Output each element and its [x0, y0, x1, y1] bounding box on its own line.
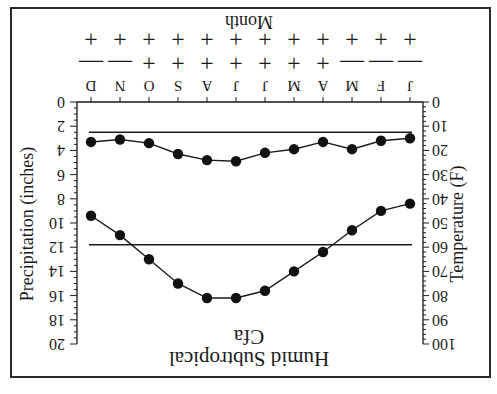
chart-title-group: Humid Subtropical Cfa [169, 325, 330, 371]
month-label: D [85, 78, 96, 94]
precipitation-point [86, 137, 96, 147]
left-axis-title: Temperature (F) [447, 165, 468, 282]
right-tick-label: 8 [57, 191, 65, 208]
plus-sign: + [200, 27, 214, 53]
right-axis-title: Precipitation (inches) [17, 147, 38, 301]
precipitation-point [202, 155, 212, 165]
right-tick-label: 12 [49, 239, 65, 256]
minus-sign: — [107, 51, 133, 77]
minus-sign: — [78, 51, 104, 77]
temperature-point [260, 286, 270, 296]
temperature-line [91, 204, 410, 298]
left-tick-label: 60 [432, 239, 448, 256]
right-tick-label: 20 [49, 336, 65, 353]
month-label: J [233, 78, 239, 94]
minus-sign: — [368, 51, 394, 77]
sign-rows: ———+++++++——++++++++++++ [78, 27, 423, 77]
temperature-point [376, 206, 386, 216]
precipitation-point [144, 138, 154, 148]
temperature-point [173, 278, 183, 288]
right-tick-label: 2 [57, 118, 65, 135]
right-tick-label: 4 [57, 142, 65, 159]
temperature-point [347, 225, 357, 235]
plus-sign: + [84, 27, 98, 53]
plus-sign: + [142, 27, 156, 53]
month-label: M [287, 78, 300, 94]
left-tick-label: 70 [432, 263, 448, 280]
plus-sign: + [142, 51, 156, 77]
plus-sign: + [287, 27, 301, 53]
precipitation-point [405, 133, 415, 143]
temperature-point [144, 254, 154, 264]
month-label: N [114, 78, 125, 94]
precipitation-point [347, 144, 357, 154]
month-labels: JFMAMJJASOND [85, 78, 413, 94]
temperature-point [289, 266, 299, 276]
left-tick-label: 80 [432, 288, 448, 305]
plus-sign: + [113, 27, 127, 53]
climograph-canvas: Humid Subtropical Cfa 010203040506070809… [0, 0, 497, 394]
left-tick-label: 40 [432, 191, 448, 208]
climograph-chart: Humid Subtropical Cfa 010203040506070809… [0, 0, 497, 394]
right-tick-label: 6 [57, 167, 65, 184]
precipitation-point [289, 144, 299, 154]
plus-sign: + [229, 51, 243, 77]
precipitation-line [91, 138, 410, 161]
plus-sign: + [403, 27, 417, 53]
left-tick-label: 10 [432, 118, 448, 135]
minus-sign: — [397, 51, 423, 77]
left-tick-label: 100 [432, 336, 456, 353]
temperature-point [115, 230, 125, 240]
temperature-point [231, 293, 241, 303]
plus-sign: + [171, 51, 185, 77]
chart-subtitle: Cfa [233, 325, 264, 349]
plus-sign: + [200, 51, 214, 77]
month-label: A [317, 78, 328, 94]
temperature-point [202, 293, 212, 303]
plus-sign: + [171, 27, 185, 53]
left-tick-label: 30 [432, 167, 448, 184]
left-tick-label: 20 [432, 142, 448, 159]
precipitation-point [173, 149, 183, 159]
plus-sign: + [374, 27, 388, 53]
plus-sign: + [345, 27, 359, 53]
precipitation-point [318, 137, 328, 147]
precipitation-point [231, 156, 241, 166]
temperature-point [86, 211, 96, 221]
month-label: A [201, 78, 212, 94]
chart-title: Humid Subtropical [169, 347, 330, 371]
plus-sign: + [316, 51, 330, 77]
precipitation-point [115, 134, 125, 144]
left-tick-label: 50 [432, 215, 448, 232]
reference-lines [89, 132, 412, 245]
right-tick-label: 16 [49, 288, 65, 305]
month-label: O [143, 78, 154, 94]
minus-sign: — [339, 51, 365, 77]
right-tick-label: 18 [49, 312, 65, 329]
month-label: J [262, 78, 268, 94]
month-label: M [345, 78, 358, 94]
precipitation-point [376, 136, 386, 146]
temperature-point [318, 247, 328, 257]
right-tick-label: 14 [49, 263, 65, 280]
plus-sign: + [316, 27, 330, 53]
left-tick-label: 0 [432, 94, 440, 111]
left-tick-label: 90 [432, 312, 448, 329]
data-series [86, 133, 415, 303]
precipitation-point [260, 148, 270, 158]
month-label: F [377, 78, 385, 94]
right-tick-label: 10 [49, 215, 65, 232]
right-tick-label: 0 [57, 94, 65, 111]
month-label: J [407, 78, 413, 94]
temperature-point [405, 198, 415, 208]
plus-sign: + [287, 51, 301, 77]
month-label: S [174, 78, 182, 94]
x-axis-title: Month [225, 12, 273, 32]
plus-sign: + [258, 51, 272, 77]
